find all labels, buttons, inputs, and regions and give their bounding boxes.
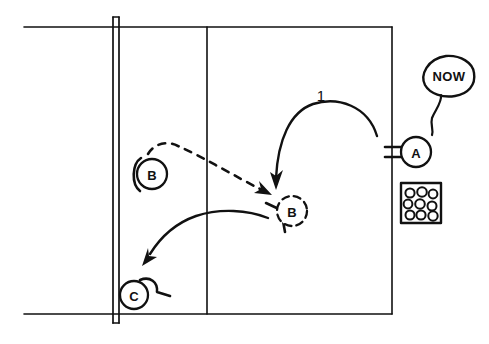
ball (428, 202, 437, 211)
court-lines (24, 27, 392, 314)
arrow-move-b-head (254, 181, 272, 195)
arrow-feed-1-path (276, 101, 377, 178)
ball (416, 210, 425, 219)
diagram-canvas: 1 A B B (0, 0, 489, 344)
ball (428, 211, 437, 220)
marker-b-start-label: B (147, 168, 156, 183)
marker-c-label: C (129, 289, 139, 304)
ball (405, 188, 414, 197)
marker-b-moved[interactable]: B (266, 196, 307, 232)
marker-c[interactable]: C (120, 279, 170, 309)
arrow-shot-2 (142, 211, 268, 266)
speech-bubble: NOW (423, 56, 474, 135)
speech-bubble-text: NOW (433, 69, 466, 84)
marker-b-moved-label: B (287, 205, 296, 220)
ball (406, 211, 415, 220)
ball (415, 199, 425, 209)
marker-b-start[interactable]: B (134, 158, 167, 191)
ball (429, 190, 438, 199)
marker-a-label: A (411, 146, 421, 161)
ball-basket (401, 183, 441, 223)
ball (404, 200, 413, 209)
arrow-feed-1 (270, 101, 377, 190)
net (113, 17, 119, 323)
drill-diagram-svg: 1 A B B (0, 0, 489, 344)
arrow-shot-2-head (142, 248, 157, 266)
speech-bubble-tail (431, 95, 441, 135)
arrow-shot-2-path (150, 211, 268, 254)
step-label-1: 1 (317, 87, 325, 104)
ball (417, 187, 427, 197)
